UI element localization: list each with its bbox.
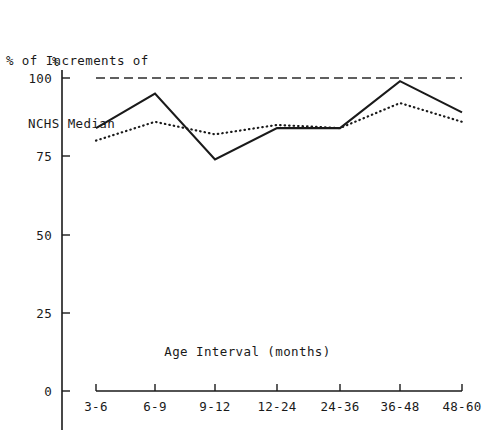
y-axis-ticks — [62, 78, 70, 391]
x-axis-ticks — [96, 384, 462, 391]
series-line-solid — [96, 81, 462, 159]
plot-area — [0, 0, 495, 447]
chart-container: % of Increments of NCHS Median % Age Int… — [0, 0, 495, 447]
series-line-dotted — [96, 103, 462, 141]
